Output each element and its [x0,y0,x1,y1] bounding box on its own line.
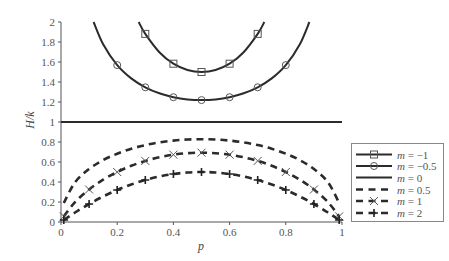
y-tick-label: 1.4 [41,76,55,88]
x-tick-label: 0.8 [279,226,293,238]
x-marker-icon [310,186,318,194]
plus-marker-icon [113,186,121,194]
plus-marker-icon [141,176,149,184]
x-axis-title: p [197,239,204,253]
x-tick-label: 0.2 [110,226,124,238]
series-m-2 [60,168,343,224]
y-tick-label: 1 [50,116,56,128]
legend-label: m = −1 [397,149,428,161]
series-line [139,22,265,72]
plus-marker-icon [198,168,206,176]
plus-marker-icon [254,176,262,184]
legend: m = −1m = −0.5m = 0m = 0.5m = 1m = 2 [352,144,444,222]
series-line [94,22,310,100]
legend-label: m = 2 [397,207,422,219]
legend-label: m = 0.5 [397,184,431,196]
x-marker-icon [85,186,93,194]
y-axis-title: H/k [23,111,37,130]
y-tick-label: 0 [50,216,56,228]
plus-marker-icon [169,170,177,178]
plus-marker-icon [282,186,290,194]
legend-label: m = −0.5 [397,160,437,172]
legend-label: m = 0 [397,172,423,184]
series-m-neg1 [139,22,265,76]
plus-marker-icon [226,170,234,178]
legend-label: m = 1 [397,195,422,207]
y-tick-label: 1.8 [41,36,55,48]
series-m-1 [60,149,343,221]
x-tick-label: 0 [58,226,64,238]
x-tick-label: 0.6 [223,226,237,238]
y-tick-label: 0.8 [41,136,55,148]
entropy-chart: 00.20.40.60.8100.20.40.60.811.21.41.61.8… [0,0,449,261]
y-tick-label: 0.2 [41,196,55,208]
series-line [64,153,339,217]
y-tick-label: 1.6 [41,56,55,68]
y-tick-label: 0.6 [41,156,55,168]
y-tick-label: 1.2 [41,96,55,108]
x-tick-label: 1 [339,226,345,238]
y-tick-label: 0.4 [41,176,55,188]
series-m-neg0.5 [94,22,310,104]
x-tick-label: 0.4 [167,226,181,238]
y-tick-label: 2 [50,16,56,28]
plot-area [60,22,343,224]
